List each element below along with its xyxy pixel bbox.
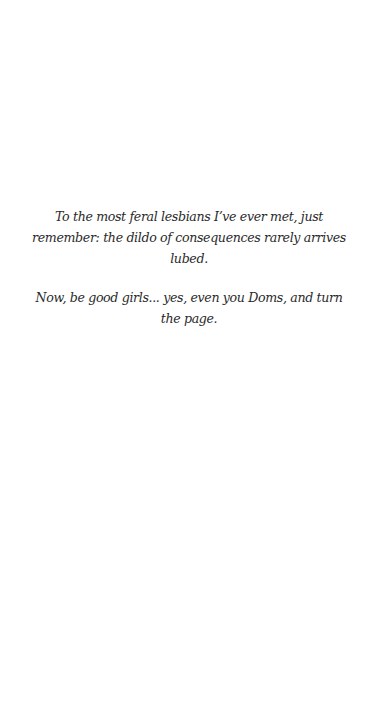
dedication-paragraph-1: To the most feral lesbians I’ve ever met… [24,206,354,269]
dedication-paragraph-2: Now, be good girls... yes, even you Doms… [24,287,354,329]
dedication-text-block: To the most feral lesbians I’ve ever met… [24,206,354,329]
book-page: To the most feral lesbians I’ve ever met… [0,0,378,717]
